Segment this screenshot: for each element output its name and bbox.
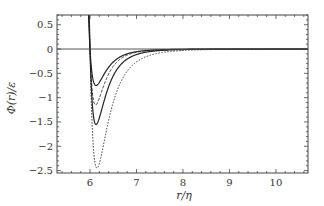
x-tick-label: 7 <box>133 177 139 188</box>
potential-curve-dashed <box>88 0 308 105</box>
x-tick-label: 6 <box>87 177 93 188</box>
potential-curve-dotted <box>88 0 308 168</box>
y-tick-label: −0.5 <box>29 68 53 79</box>
y-tick-label: −1.5 <box>29 116 53 127</box>
y-axis-label: Φ(r)/ε <box>5 82 18 115</box>
y-axis-ticks: 0.50−0.5−1−1.5−2−2.5 <box>29 15 308 176</box>
y-tick-label: 0 <box>47 44 53 55</box>
x-tick-label: 9 <box>226 177 232 188</box>
y-tick-label: −2.5 <box>29 165 53 176</box>
potential-curve-solid <box>88 0 308 85</box>
plot-curves <box>88 0 308 168</box>
potential-curve-solid <box>88 0 308 124</box>
x-axis-label: r/η <box>176 189 192 202</box>
chart: 678910 0.50−0.5−1−1.5−2−2.5 r/η Φ(r)/ε <box>0 0 324 206</box>
y-tick-label: −1 <box>38 92 53 103</box>
x-tick-label: 8 <box>180 177 186 188</box>
plot-frame <box>57 15 308 173</box>
x-axis-ticks: 678910 <box>62 15 304 188</box>
y-tick-label: 0.5 <box>37 19 53 30</box>
y-tick-label: −2 <box>38 141 53 152</box>
x-tick-label: 10 <box>270 177 283 188</box>
